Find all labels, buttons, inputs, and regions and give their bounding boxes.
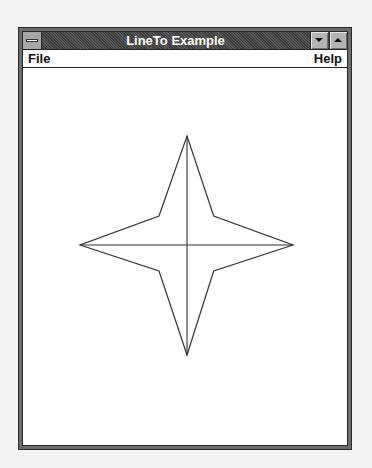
window-frame: LineTo Example File Help bbox=[22, 31, 348, 446]
star-cross-lines bbox=[80, 136, 293, 355]
app-window: LineTo Example File Help bbox=[18, 27, 352, 450]
menu-help[interactable]: Help bbox=[311, 50, 345, 67]
menu-bar: File Help bbox=[23, 50, 347, 68]
system-menu-button[interactable] bbox=[23, 32, 42, 49]
minimize-arrow-icon bbox=[315, 38, 323, 42]
window-title: LineTo Example bbox=[42, 32, 309, 49]
title-bar[interactable]: LineTo Example bbox=[23, 32, 347, 50]
maximize-arrow-icon bbox=[334, 38, 342, 42]
system-menu-icon bbox=[26, 39, 38, 42]
client-area bbox=[23, 68, 347, 445]
minimize-button[interactable] bbox=[310, 32, 328, 49]
drawing-canvas bbox=[23, 68, 349, 447]
menu-file[interactable]: File bbox=[25, 50, 53, 67]
maximize-button[interactable] bbox=[329, 32, 347, 49]
